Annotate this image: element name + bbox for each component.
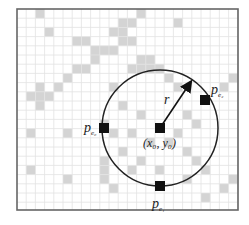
shaded-cell — [26, 129, 35, 138]
shaded-pixel-cells — [26, 9, 238, 202]
shaded-cell — [137, 156, 146, 165]
shaded-cell — [100, 156, 109, 165]
shaded-cell — [173, 83, 182, 92]
shaded-cell — [164, 73, 173, 82]
p_e1-label: pe₁ — [151, 196, 165, 213]
shaded-cell — [146, 55, 155, 64]
p_e2-marker — [200, 95, 210, 105]
shaded-cell — [109, 46, 118, 55]
shaded-cell — [63, 175, 72, 184]
shaded-cell — [91, 46, 100, 55]
shaded-cell — [192, 156, 201, 165]
shaded-cell — [137, 9, 146, 18]
shaded-cell — [155, 165, 164, 174]
shaded-cell — [109, 83, 118, 92]
p_e0-label: pe₀ — [83, 120, 97, 137]
shaded-cell — [192, 119, 201, 128]
shaded-cell — [35, 92, 44, 101]
shaded-cell — [91, 55, 100, 64]
shaded-cell — [118, 18, 127, 27]
shaded-cell — [183, 147, 192, 156]
shaded-cell — [219, 184, 228, 193]
circle-diagram: r (x₀, y₀) pe₀pe₁pe₂ — [0, 0, 249, 225]
p_e0-marker — [99, 123, 109, 133]
shaded-cell — [35, 101, 44, 110]
shaded-cell — [229, 175, 238, 184]
shaded-cell — [45, 92, 54, 101]
shaded-cell — [118, 27, 127, 36]
shaded-cell — [100, 175, 109, 184]
center-coordinate-label: (x₀, y₀) — [143, 136, 176, 150]
shaded-cell — [137, 55, 146, 64]
shaded-cell — [118, 37, 127, 46]
shaded-cell — [72, 64, 81, 73]
pixel-grid — [17, 9, 238, 210]
shaded-cell — [201, 193, 210, 202]
shaded-cell — [155, 64, 164, 73]
shaded-cell — [81, 37, 90, 46]
shaded-cell — [100, 46, 109, 55]
radius-label: r — [164, 92, 170, 107]
shaded-cell — [54, 83, 63, 92]
shaded-cell — [100, 165, 109, 174]
shaded-cell — [229, 73, 238, 82]
shaded-cell — [35, 9, 44, 18]
shaded-cell — [109, 27, 118, 36]
center-marker — [155, 123, 165, 133]
shaded-cell — [35, 83, 44, 92]
shaded-cell — [72, 37, 81, 46]
shaded-cell — [63, 129, 72, 138]
p_e1-marker — [155, 181, 165, 191]
shaded-cell — [118, 101, 127, 110]
shaded-cell — [137, 110, 146, 119]
shaded-cell — [183, 110, 192, 119]
shaded-cell — [127, 18, 136, 27]
shaded-cell — [118, 147, 127, 156]
shaded-cell — [63, 73, 72, 82]
shaded-cell — [45, 27, 54, 36]
shaded-cell — [26, 92, 35, 101]
shaded-cell — [109, 129, 118, 138]
shaded-cell — [127, 37, 136, 46]
shaded-cell — [127, 129, 136, 138]
shaded-cell — [127, 165, 136, 174]
shaded-cell — [109, 184, 118, 193]
shaded-cell — [81, 64, 90, 73]
shaded-cell — [127, 64, 136, 73]
shaded-cell — [26, 165, 35, 174]
shaded-cell — [173, 18, 182, 27]
